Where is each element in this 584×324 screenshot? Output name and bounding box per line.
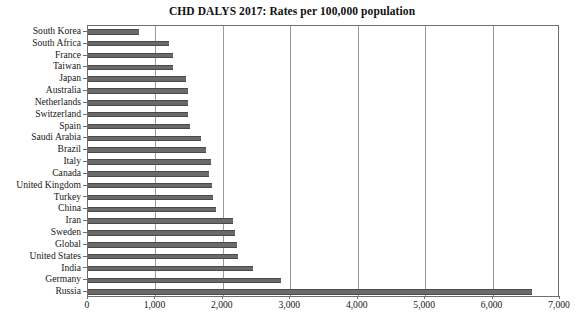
y-axis-label-turkey: Turkey (54, 191, 81, 203)
x-axis-tick-labels: 01,0002,0003,0004,0005,0006,0007,000 (0, 299, 584, 319)
x-axis-tick (559, 296, 560, 299)
bar-row (88, 168, 209, 180)
y-axis-label-netherlands: Netherlands (35, 96, 81, 108)
x-axis-label-6000: 6,000 (481, 299, 503, 310)
x-axis-label-7000: 7,000 (548, 299, 570, 310)
x-axis-tick (492, 296, 493, 299)
plot-area (87, 25, 559, 297)
x-axis-tick (424, 296, 425, 299)
x-axis-label-2000: 2,000 (211, 299, 233, 310)
y-axis-label-canada: Canada (52, 167, 81, 179)
y-axis-category-labels: South KoreaSouth AfricaFranceTaiwanJapan… (0, 25, 84, 297)
y-axis-label-saudi-arabia: Saudi Arabia (31, 131, 81, 143)
bar (88, 207, 216, 213)
bar-row (88, 156, 211, 168)
y-axis-label-spain: Spain (59, 120, 81, 132)
bar-row (88, 144, 206, 156)
bar (88, 53, 173, 59)
bar (88, 171, 209, 177)
bar (88, 124, 190, 130)
bar (88, 88, 188, 94)
bar (88, 266, 253, 272)
bar (88, 100, 188, 106)
x-axis-label-5000: 5,000 (413, 299, 435, 310)
bar-row (88, 61, 173, 73)
bar (88, 136, 201, 142)
bar-row (88, 251, 238, 263)
bar-row (88, 192, 213, 204)
x-axis-label-3000: 3,000 (278, 299, 300, 310)
y-axis-label-global: Global (55, 238, 81, 250)
bar-row (88, 121, 190, 133)
y-axis-label-united-states: United States (30, 250, 81, 262)
bar-row (88, 38, 169, 50)
bar (88, 65, 173, 71)
x-axis-label-4000: 4,000 (346, 299, 368, 310)
y-axis-label-south-africa: South Africa (32, 37, 81, 49)
y-axis-label-taiwan: Taiwan (53, 60, 81, 72)
bar (88, 218, 233, 224)
y-axis-label-italy: Italy (63, 155, 81, 167)
y-axis-label-russia: Russia (55, 285, 81, 297)
bar-row (88, 274, 281, 286)
y-axis-label-france: France (55, 49, 81, 61)
bar-row (88, 263, 253, 275)
x-axis-label-1000: 1,000 (144, 299, 166, 310)
x-axis-tick (289, 296, 290, 299)
y-axis-label-south-korea: South Korea (33, 25, 81, 37)
bar-row (88, 227, 235, 239)
bar-row (88, 85, 188, 97)
y-axis-label-brazil: Brazil (58, 143, 81, 155)
bar-row (88, 180, 212, 192)
x-axis-tick (357, 296, 358, 299)
bar-row (88, 132, 201, 144)
x-axis-tick (222, 296, 223, 299)
bar-row (88, 73, 186, 85)
bar (88, 278, 281, 284)
bar-row (88, 203, 216, 215)
x-axis-tick (87, 296, 88, 299)
y-axis-label-china: China (58, 202, 81, 214)
bar (88, 112, 188, 118)
bar (88, 41, 169, 47)
bar-row (88, 109, 188, 121)
y-axis-label-india: India (61, 262, 81, 274)
y-axis-label-sweden: Sweden (51, 226, 81, 238)
bar-row (88, 26, 139, 38)
bar (88, 76, 186, 82)
bar-row (88, 239, 237, 251)
chart-title: CHD DALYS 2017: Rates per 100,000 popula… (0, 5, 584, 17)
bar-row (88, 97, 188, 109)
bar (88, 242, 237, 248)
bar-row (88, 50, 173, 62)
chd-dalys-bar-chart: CHD DALYS 2017: Rates per 100,000 popula… (0, 0, 584, 324)
y-axis-label-united-kingdom: United Kingdom (16, 179, 81, 191)
bar (88, 230, 235, 236)
bar (88, 195, 213, 201)
bar (88, 159, 211, 165)
y-axis-label-germany: Germany (45, 273, 81, 285)
bar (88, 289, 532, 295)
bars-layer (88, 26, 558, 296)
bar (88, 147, 206, 153)
bar (88, 183, 212, 189)
y-axis-label-switzerland: Switzerland (35, 108, 81, 120)
y-axis-label-japan: Japan (59, 72, 81, 84)
x-axis-tick (154, 296, 155, 299)
y-axis-label-australia: Australia (46, 84, 81, 96)
bar (88, 29, 139, 35)
y-axis-label-iran: Iran (66, 214, 81, 226)
bar (88, 254, 238, 260)
bar-row (88, 215, 233, 227)
x-axis-label-0: 0 (85, 299, 90, 310)
